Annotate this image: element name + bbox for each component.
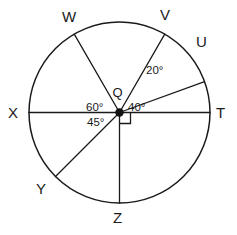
point-label-y: Y — [36, 180, 46, 197]
angle-label-45: 45° — [87, 116, 104, 128]
angle-label-60: 60° — [86, 101, 103, 113]
angle-label-40: 40° — [128, 101, 145, 113]
point-label-v: V — [160, 6, 170, 23]
point-label-t: T — [216, 104, 225, 121]
point-label-q: Q — [113, 85, 123, 100]
circle-angles-diagram: Q W V U T X Y Z 60° 40° 20° 45° — [0, 0, 237, 235]
point-label-x: X — [8, 104, 18, 121]
point-label-w: W — [62, 8, 76, 25]
angle-label-20: 20° — [146, 64, 163, 76]
center-point-dot — [115, 108, 123, 116]
point-label-u: U — [196, 33, 207, 50]
point-label-z: Z — [113, 209, 122, 226]
